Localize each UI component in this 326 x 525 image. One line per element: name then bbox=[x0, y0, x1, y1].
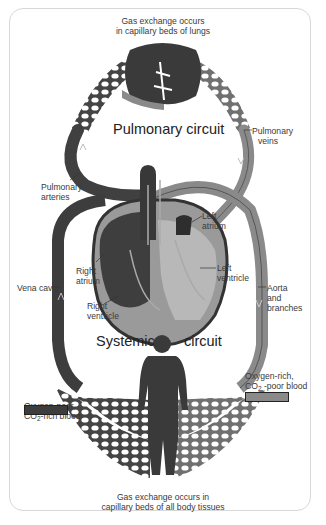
label-aorta-and-branches: Aorta and branches bbox=[267, 283, 302, 313]
caption-line: Gas exchange occurs bbox=[112, 16, 214, 26]
legend-text: -poor blood bbox=[262, 381, 308, 391]
caption-line: capillary beds of all body tissues bbox=[96, 502, 230, 512]
label-line: Right bbox=[76, 266, 100, 276]
label-line: arteries bbox=[41, 192, 82, 202]
label-left-atrium: Left atrium bbox=[202, 211, 226, 231]
label-line: Left bbox=[202, 211, 226, 221]
label-vena-cava: Vena cava bbox=[17, 283, 57, 293]
label-line: Aorta bbox=[267, 283, 302, 293]
label-left-ventricle: Left ventricle bbox=[217, 263, 249, 283]
label-right-atrium: Right atrium bbox=[76, 266, 100, 286]
label-pulmonary-arteries: Pulmonary arteries bbox=[41, 182, 82, 202]
legend-line: CO2 -poor blood bbox=[245, 381, 307, 391]
label-pulmonary-veins: Pulmonary veins bbox=[252, 126, 293, 146]
label-line: Left bbox=[217, 263, 249, 273]
label-line: veins bbox=[252, 136, 293, 146]
label-line: ventricle bbox=[87, 311, 119, 321]
systemic-circuit-title-right: circuit bbox=[184, 333, 222, 349]
label-line: Right bbox=[87, 301, 119, 311]
label-line: atrium bbox=[202, 221, 226, 231]
label-line: Pulmonary bbox=[252, 126, 293, 136]
lung-capillary-bed bbox=[72, 43, 250, 132]
label-line: atrium bbox=[76, 276, 100, 286]
tissue-gas-exchange-caption: Gas exchange occurs in capillary beds of… bbox=[96, 492, 230, 512]
label-line: branches bbox=[267, 303, 302, 313]
pulmonary-circuit-title: Pulmonary circuit bbox=[113, 121, 224, 137]
legend-text: CO bbox=[245, 381, 258, 391]
circulation-diagram bbox=[0, 0, 326, 525]
label-line: ventricle bbox=[217, 273, 249, 283]
label-line: Pulmonary bbox=[41, 182, 82, 192]
label-line: and bbox=[267, 293, 302, 303]
legend-swatch-oxygen-rich bbox=[245, 392, 289, 402]
caption-line: Gas exchange occurs in bbox=[96, 492, 230, 502]
label-right-ventricle: Right ventricle bbox=[87, 301, 119, 321]
systemic-circuit-title-left: Systemic bbox=[96, 333, 155, 349]
legend-swatch-oxygen-poor bbox=[24, 405, 68, 415]
caption-line: in capillary beds of lungs bbox=[112, 26, 214, 36]
legend-line: Oxygen-rich, bbox=[245, 371, 307, 381]
lung-gas-exchange-caption: Gas exchange occurs in capillary beds of… bbox=[112, 16, 214, 36]
legend-oxygen-rich: Oxygen-rich, CO2 -poor blood bbox=[245, 371, 307, 391]
